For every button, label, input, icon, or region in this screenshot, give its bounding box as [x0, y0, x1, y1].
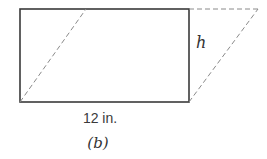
rectangle-parallelogram-diagram: h 12 in. (b): [0, 0, 267, 159]
parallelogram-left-diagonal: [20, 9, 86, 102]
base-length-label: 12 in.: [83, 110, 117, 126]
height-label: h: [196, 33, 206, 52]
rectangle-outline: [20, 9, 189, 102]
figure-caption-label: (b): [87, 134, 108, 152]
parallelogram-right-diagonal: [189, 9, 258, 102]
